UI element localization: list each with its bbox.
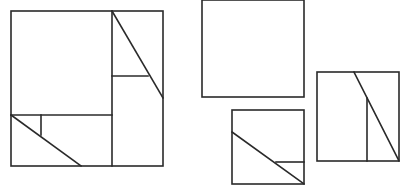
right-square-diagonal-diagonal xyxy=(354,72,399,161)
dissected-square-large-outline xyxy=(11,11,163,166)
dissected-square-large xyxy=(11,11,163,166)
small-square-diagonal-diagonal xyxy=(232,132,304,184)
right-square-diagonal xyxy=(317,72,399,161)
diagram-svg xyxy=(0,0,404,192)
plain-rectangle xyxy=(202,0,304,97)
dissected-square-large-lower-left-diagonal xyxy=(11,115,81,166)
right-square-diagonal-outline xyxy=(317,72,399,161)
small-square-diagonal xyxy=(232,110,304,184)
dissected-square-large-upper-right-diagonal xyxy=(112,11,163,98)
dissection-diagram xyxy=(0,0,404,192)
small-square-diagonal-outline xyxy=(232,110,304,184)
plain-rectangle-outline xyxy=(202,0,304,97)
